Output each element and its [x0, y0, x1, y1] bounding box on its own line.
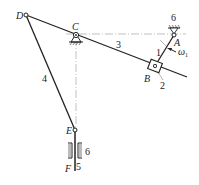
omega-subscript: 1	[185, 52, 188, 58]
label-link-6-guide: 6	[85, 146, 90, 157]
label-link-1: 1	[156, 47, 161, 58]
link-4-rod	[26, 15, 75, 130]
label-link-6-top: 6	[171, 12, 176, 23]
joint-d	[24, 13, 28, 17]
omega-symbol: ω	[178, 46, 185, 57]
label-e: E	[65, 125, 72, 136]
joint-e	[73, 128, 77, 132]
slider-guide-right	[78, 143, 82, 158]
crank-extension	[160, 40, 166, 46]
label-link-5: 5	[76, 161, 81, 172]
ground-pivot-a	[168, 25, 180, 37]
label-f: F	[64, 163, 72, 174]
label-link-3: 3	[116, 39, 121, 50]
label-link-2: 2	[160, 80, 165, 91]
mechanism-diagram: D C A B E F 6 3 1 2 4 6 5 ω1	[0, 0, 199, 185]
slider-block-b	[148, 59, 163, 73]
slider-guide-left	[68, 143, 72, 158]
label-d: D	[15, 10, 24, 21]
angular-velocity-arrow-icon	[167, 48, 176, 52]
label-omega: ω1	[178, 46, 188, 58]
label-b: B	[144, 73, 150, 84]
label-link-4: 4	[42, 73, 47, 84]
link-3-rocker	[26, 15, 187, 77]
label-c: C	[72, 21, 79, 32]
